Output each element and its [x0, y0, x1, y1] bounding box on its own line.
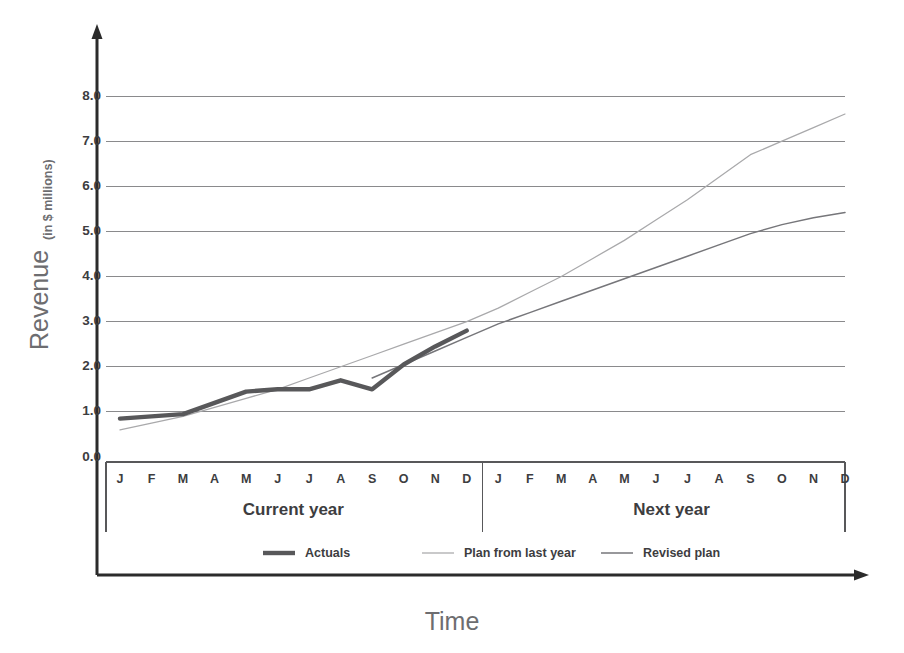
x-axis-month-label: J — [652, 472, 659, 486]
x-axis-month-label: N — [431, 472, 440, 486]
gridline-group — [106, 96, 845, 412]
x-axis-month-label: M — [619, 472, 629, 486]
legend-label: Actuals — [305, 546, 350, 560]
x-axis-month-label: J — [684, 472, 691, 486]
y-axis-tick-label: 7.0 — [82, 133, 101, 148]
period-label: Next year — [633, 500, 710, 519]
axis-group — [92, 24, 870, 581]
y-axis-tick-label: 6.0 — [82, 178, 101, 193]
series-line-revised-plan — [372, 212, 845, 378]
y-axis-arrowhead — [92, 24, 103, 39]
y-axis-tick-label: 0.0 — [82, 449, 101, 464]
x-axis-month-label: J — [495, 472, 502, 486]
x-axis-month-label: A — [588, 472, 597, 486]
x-axis-month-label: S — [746, 472, 754, 486]
y-axis-tick-labels: 8.07.06.05.04.03.02.01.00.0 — [82, 88, 101, 464]
x-axis-arrowhead — [854, 570, 869, 581]
x-axis-month-label: J — [117, 472, 124, 486]
y-axis-title: Revenue — [25, 250, 53, 350]
revenue-chart: 8.07.06.05.04.03.02.01.00.0 Revenue (in … — [0, 0, 904, 653]
series-line-plan-from-last-year — [120, 114, 845, 430]
y-axis-title-group: Revenue (in $ millions) — [25, 159, 55, 350]
x-axis-month-label: A — [210, 472, 219, 486]
y-axis-tick-label: 2.0 — [82, 358, 101, 373]
x-axis-month-label: D — [840, 472, 849, 486]
x-axis-month-label: N — [809, 472, 818, 486]
y-axis-tick-label: 5.0 — [82, 223, 101, 238]
x-axis-month-label: M — [241, 472, 251, 486]
data-series-group — [120, 114, 845, 430]
x-axis-month-label: M — [178, 472, 188, 486]
period-label: Current year — [243, 500, 344, 519]
x-axis-month-label: M — [556, 472, 566, 486]
y-axis-tick-label: 3.0 — [82, 313, 101, 328]
x-axis-month-label: F — [148, 472, 156, 486]
series-line-actuals — [120, 331, 467, 419]
chart-legend: ActualsPlan from last yearRevised plan — [263, 546, 720, 560]
x-axis-month-label: D — [462, 472, 471, 486]
x-axis-month-label: J — [306, 472, 313, 486]
legend-label: Plan from last year — [464, 546, 576, 560]
chart-canvas: 8.07.06.05.04.03.02.01.00.0 Revenue (in … — [0, 0, 904, 653]
x-axis-month-label: O — [777, 472, 787, 486]
x-axis-title: Time — [425, 607, 480, 635]
y-axis-tick-label: 1.0 — [82, 403, 101, 418]
y-axis-tick-label: 8.0 — [82, 88, 101, 103]
x-axis-month-label: O — [399, 472, 409, 486]
x-axis-month-label: A — [714, 472, 723, 486]
x-axis-month-label: A — [336, 472, 345, 486]
period-label-group: Current yearNext year — [243, 500, 710, 519]
x-axis-month-label: F — [526, 472, 534, 486]
y-axis-tick-label: 4.0 — [82, 268, 101, 283]
y-axis-subtitle: (in $ millions) — [41, 159, 55, 240]
legend-label: Revised plan — [643, 546, 720, 560]
x-axis-month-label: J — [274, 472, 281, 486]
x-axis-month-label: S — [368, 472, 376, 486]
